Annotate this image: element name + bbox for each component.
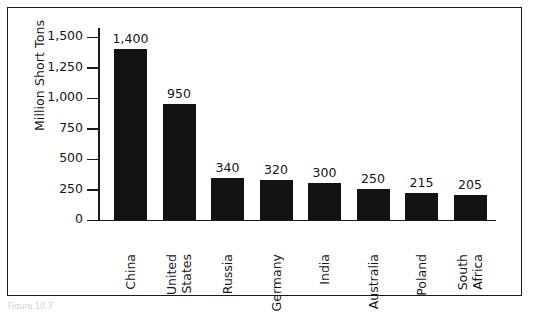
y-tick-mark: 500 — [87, 159, 98, 161]
y-axis-title: Million Short Tons — [32, 1, 47, 151]
y-tick-label: 0 — [75, 211, 83, 226]
x-category-label: Germany — [260, 254, 293, 315]
x-category-label-line: Australia — [366, 254, 381, 309]
y-axis-line — [98, 28, 100, 221]
y-tick-mark: 1,500 — [87, 37, 98, 39]
y-tick-label: 1,250 — [47, 59, 83, 74]
x-category-label: India — [308, 254, 341, 315]
x-category-label-line: Russia — [220, 254, 235, 294]
x-category-label-line: India — [317, 254, 332, 285]
x-category-label-line: China — [123, 254, 138, 290]
y-tick-mark: 250 — [87, 189, 98, 191]
x-category-label-line: Germany — [269, 254, 284, 311]
bar-value-label: 340 — [216, 160, 240, 175]
y-tick-label: 1,000 — [47, 89, 83, 104]
x-category-label-line: South — [455, 254, 470, 290]
bar[interactable] — [260, 180, 293, 219]
bar-value-label: 300 — [313, 165, 337, 180]
plot-area: 02505007501,0001,2501,500 1,400950340320… — [98, 28, 503, 228]
bar[interactable] — [163, 104, 196, 220]
bar[interactable] — [114, 49, 147, 220]
x-category-label: Poland — [405, 254, 438, 315]
bar-value-label: 1,400 — [113, 31, 149, 46]
x-category-label: SouthAfrica — [454, 254, 487, 315]
bar-value-label: 215 — [410, 175, 434, 190]
y-tick-label: 750 — [59, 120, 83, 135]
x-category-label: Russia — [211, 254, 244, 315]
y-tick-mark: 750 — [87, 128, 98, 130]
figure-caption: Figure 10.7 — [8, 302, 53, 309]
x-category-label-line: Africa — [470, 254, 485, 290]
x-category-label-line: United — [164, 254, 179, 295]
y-tick-mark: 1,250 — [87, 67, 98, 69]
y-tick-label: 1,500 — [47, 28, 83, 43]
y-tick-label: 250 — [59, 181, 83, 196]
bar-value-label: 320 — [264, 162, 288, 177]
x-category-label-line: States — [179, 254, 194, 294]
x-category-label: China — [114, 254, 147, 315]
chart-frame: Million Short Tons 02505007501,0001,2501… — [7, 7, 522, 296]
x-axis-line — [98, 220, 496, 222]
bar[interactable] — [211, 178, 244, 219]
bar[interactable] — [357, 189, 390, 220]
bar-value-label: 205 — [458, 177, 482, 192]
y-tick-mark: 0 — [87, 220, 98, 222]
bar[interactable] — [454, 195, 487, 220]
bar-value-label: 950 — [167, 86, 191, 101]
y-tick-mark: 1,000 — [87, 98, 98, 100]
x-category-label: Australia — [357, 254, 390, 315]
y-tick-label: 500 — [59, 150, 83, 165]
bar[interactable] — [308, 183, 341, 220]
x-category-label-line: Poland — [414, 254, 429, 296]
bar[interactable] — [405, 193, 438, 219]
x-category-label: UnitedStates — [163, 254, 196, 315]
bar-value-label: 250 — [361, 171, 385, 186]
